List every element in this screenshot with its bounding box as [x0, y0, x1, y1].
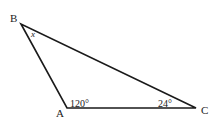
- triangle-diagram: B A C x 120° 24°: [0, 0, 213, 120]
- angle-label-c: 24°: [158, 98, 172, 109]
- vertex-label-b: B: [10, 12, 17, 24]
- angle-label-a: 120°: [70, 98, 89, 109]
- triangle-abc: [21, 24, 196, 108]
- vertex-label-c: C: [201, 104, 208, 116]
- vertex-label-a: A: [56, 107, 64, 119]
- angle-label-b: x: [30, 29, 35, 39]
